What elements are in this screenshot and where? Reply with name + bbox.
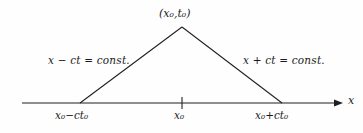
apex-coordinate-label: (x₀,t₀): [159, 8, 191, 19]
tick-label-right-vertex: x₀+ct₀: [255, 110, 288, 121]
right-characteristic-label: x + ct = const.: [243, 55, 325, 66]
x-axis-arrowhead: [334, 100, 343, 107]
tick-label-left-vertex: x₀−ct₀: [55, 110, 88, 121]
domain-of-dependence-diagram: (x₀,t₀) x − ct = const. x + ct = const. …: [0, 0, 363, 133]
tick-label-x0: x₀: [174, 110, 184, 121]
x-axis-label: x: [348, 95, 354, 106]
left-characteristic-label: x − ct = const.: [48, 55, 130, 66]
